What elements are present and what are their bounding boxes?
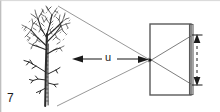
distance-arrowhead-left [72, 56, 83, 63]
ray-lower-object-to-aperture [57, 60, 150, 106]
tree-lower-branches [24, 60, 60, 94]
tree-object [22, 6, 70, 106]
figure-number-label: 7 [6, 92, 15, 104]
camera-box-group [150, 24, 193, 95]
camera-box-outline [150, 24, 191, 95]
aperture-point [148, 58, 151, 61]
distance-arrowhead-right [138, 56, 149, 63]
image-height-arrow [192, 34, 203, 86]
ray-lines-group [57, 6, 191, 106]
object-distance-label: u [103, 51, 113, 64]
ray-lower-aperture-to-film [148, 36, 191, 62]
ray-upper-aperture-to-film [148, 58, 191, 84]
optics-pinhole-camera-figure: u 7 [0, 0, 220, 112]
